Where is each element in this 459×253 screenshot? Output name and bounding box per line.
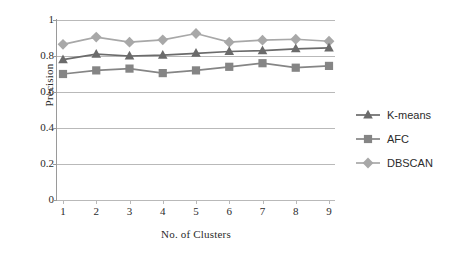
legend-item-k-means[interactable]: K-means bbox=[355, 103, 455, 127]
x-tick-mark bbox=[263, 200, 264, 204]
series-plot bbox=[57, 20, 335, 200]
triangle-marker bbox=[324, 43, 334, 52]
x-tick-label: 3 bbox=[118, 206, 142, 217]
series-k-means bbox=[58, 43, 334, 63]
series-dbscan bbox=[58, 28, 335, 50]
triangle-marker bbox=[91, 49, 101, 58]
y-tick-label: 0.6 bbox=[28, 86, 54, 97]
square-marker bbox=[225, 63, 233, 71]
x-tick-label: 6 bbox=[217, 206, 241, 217]
x-tick-label: 5 bbox=[184, 206, 208, 217]
square-marker bbox=[59, 70, 67, 78]
legend-label: AFC bbox=[381, 133, 409, 145]
legend-item-dbscan[interactable]: DBSCAN bbox=[355, 151, 455, 175]
y-tick-label: 0 bbox=[28, 194, 54, 205]
legend-label: K-means bbox=[381, 109, 431, 121]
legend-item-afc[interactable]: AFC bbox=[355, 127, 455, 151]
diamond-marker bbox=[124, 37, 135, 48]
series-afc bbox=[59, 59, 333, 78]
legend-label: DBSCAN bbox=[381, 157, 433, 169]
x-tick-label: 4 bbox=[151, 206, 175, 217]
x-tick-mark bbox=[130, 200, 131, 204]
x-tick-mark bbox=[163, 200, 164, 204]
y-axis-tick-labels: 00.20.40.60.81 bbox=[26, 0, 54, 253]
diamond-marker bbox=[224, 37, 235, 48]
triangle-icon bbox=[355, 107, 381, 123]
precision-vs-clusters-chart: Precision 00.20.40.60.81 123456789 No. o… bbox=[0, 0, 459, 253]
x-tick-label: 2 bbox=[84, 206, 108, 217]
square-marker bbox=[364, 135, 372, 143]
diamond-icon bbox=[355, 155, 381, 171]
x-tick-mark bbox=[96, 200, 97, 204]
x-tick-mark bbox=[329, 200, 330, 204]
square-marker bbox=[159, 69, 167, 77]
x-tick-mark bbox=[296, 200, 297, 204]
y-tick-label: 0.4 bbox=[28, 122, 54, 133]
y-tick-label: 0.8 bbox=[28, 50, 54, 61]
diamond-marker bbox=[191, 28, 202, 39]
plot-area bbox=[57, 20, 335, 200]
x-axis-tick-labels: 123456789 bbox=[57, 206, 335, 220]
x-tick-label: 1 bbox=[51, 206, 75, 217]
x-tick-mark bbox=[229, 200, 230, 204]
y-tick-label: 0.2 bbox=[28, 158, 54, 169]
square-marker bbox=[192, 66, 200, 74]
chart-legend: K-meansAFCDBSCAN bbox=[355, 103, 455, 175]
square-marker bbox=[125, 65, 133, 73]
x-tick-label: 9 bbox=[317, 206, 341, 217]
y-tick-label: 1 bbox=[28, 14, 54, 25]
square-marker bbox=[292, 64, 300, 72]
diamond-marker bbox=[58, 39, 69, 50]
x-tick-mark bbox=[63, 200, 64, 204]
square-marker bbox=[258, 59, 266, 67]
diamond-marker bbox=[363, 158, 374, 169]
diamond-marker bbox=[290, 34, 301, 45]
diamond-marker bbox=[91, 32, 102, 43]
y-tick-mark bbox=[53, 200, 57, 201]
diamond-marker bbox=[157, 34, 168, 45]
x-tick-label: 7 bbox=[251, 206, 275, 217]
square-icon bbox=[355, 131, 381, 147]
diamond-marker bbox=[257, 35, 268, 46]
x-tick-mark bbox=[196, 200, 197, 204]
square-marker bbox=[92, 66, 100, 74]
x-tick-label: 8 bbox=[284, 206, 308, 217]
x-axis-title: No. of Clusters bbox=[57, 228, 335, 240]
square-marker bbox=[325, 62, 333, 70]
